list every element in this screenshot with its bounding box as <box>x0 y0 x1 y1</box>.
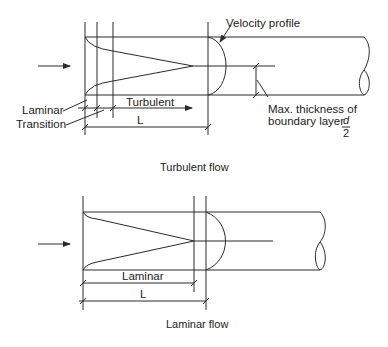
max-thickness-label-line2: boundary layer <box>268 115 344 127</box>
boundary-layer-bottom <box>85 66 193 95</box>
boundary-layer-top <box>83 212 194 241</box>
transition-zone-label: Transition <box>16 118 66 130</box>
velocity-profile-label: Velocity profile <box>226 17 300 29</box>
boundary-layer-bottom <box>83 241 194 270</box>
laminar-zone-label: Laminar <box>122 270 164 282</box>
boundary-layer-top <box>85 37 193 66</box>
laminar-zone-label: Laminar <box>22 104 64 116</box>
thickness-leader <box>257 80 268 97</box>
laminar-flow-diagram: Laminar L Laminar flow <box>38 196 325 330</box>
pipe-break-end <box>359 37 369 95</box>
length-label: L <box>140 288 147 300</box>
length-label: L <box>137 114 144 126</box>
laminar-flow-caption: Laminar flow <box>166 318 228 330</box>
turbulent-zone-label: Turbulent <box>126 96 175 108</box>
pipe-break-end <box>315 212 325 270</box>
turbulent-flow-caption: Turbulent flow <box>160 161 229 173</box>
turbulent-flow-diagram: Velocity profile Max. thickness of bound… <box>16 17 369 173</box>
fraction-numerator: d <box>343 114 350 126</box>
fraction-denominator: 2 <box>343 127 349 139</box>
